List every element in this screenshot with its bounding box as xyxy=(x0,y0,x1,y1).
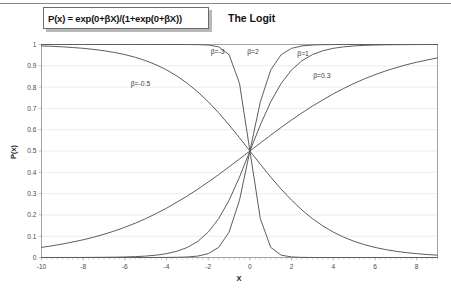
grid-lines xyxy=(42,66,438,236)
y-tick-label: 0.3 xyxy=(27,190,36,197)
y-tick-label: 1 xyxy=(33,41,37,48)
x-tick-label: -2 xyxy=(205,263,211,270)
logit-curve-2 xyxy=(42,46,438,255)
curve-annotation-labels: β=-3β=-0.5β=0.3β=1β=2 xyxy=(131,48,331,89)
x-tick-label: 6 xyxy=(373,263,377,270)
logit-chart: 00.10.20.30.40.50.60.70.80.91 -10-8-6-4-… xyxy=(0,0,451,295)
y-tick-label: 0.2 xyxy=(27,211,36,218)
curve-label: β=0.3 xyxy=(313,72,331,80)
x-tick-label: 8 xyxy=(415,263,419,270)
slide-canvas: P(x) = exp(0+βX)/(1+exp(0+βX)) The Logit… xyxy=(0,0,451,295)
y-axis-tick-labels: 00.10.20.30.40.50.60.70.80.91 xyxy=(27,41,37,261)
y-tick-label: 0.4 xyxy=(27,169,36,176)
curve-label: β=1 xyxy=(297,50,309,58)
y-tick-label: 0.6 xyxy=(27,126,36,133)
x-tick-label: 2 xyxy=(290,263,294,270)
y-tick-label: 0 xyxy=(33,254,37,261)
y-tick-label: 0.5 xyxy=(27,147,36,154)
x-tick-label: -10 xyxy=(37,263,47,270)
x-tick-label: -4 xyxy=(164,263,170,270)
x-tick-label: 0 xyxy=(248,263,252,270)
x-tick-label: -8 xyxy=(80,263,86,270)
y-axis-title: P(x) xyxy=(9,144,18,159)
x-axis-title: X xyxy=(237,274,242,283)
x-tick-label: -6 xyxy=(122,263,128,270)
x-tick-label: 4 xyxy=(331,263,335,270)
x-axis-tick-labels: -10-8-6-4-202468 xyxy=(37,263,419,270)
y-tick-label: 0.9 xyxy=(27,62,36,69)
curve-label: β=-3 xyxy=(211,48,225,56)
y-tick-label: 0.8 xyxy=(27,84,36,91)
y-tick-label: 0.1 xyxy=(27,233,36,240)
curve-label: β=2 xyxy=(247,48,259,56)
curve-label: β=-0.5 xyxy=(131,80,151,88)
y-tick-label: 0.7 xyxy=(27,105,36,112)
